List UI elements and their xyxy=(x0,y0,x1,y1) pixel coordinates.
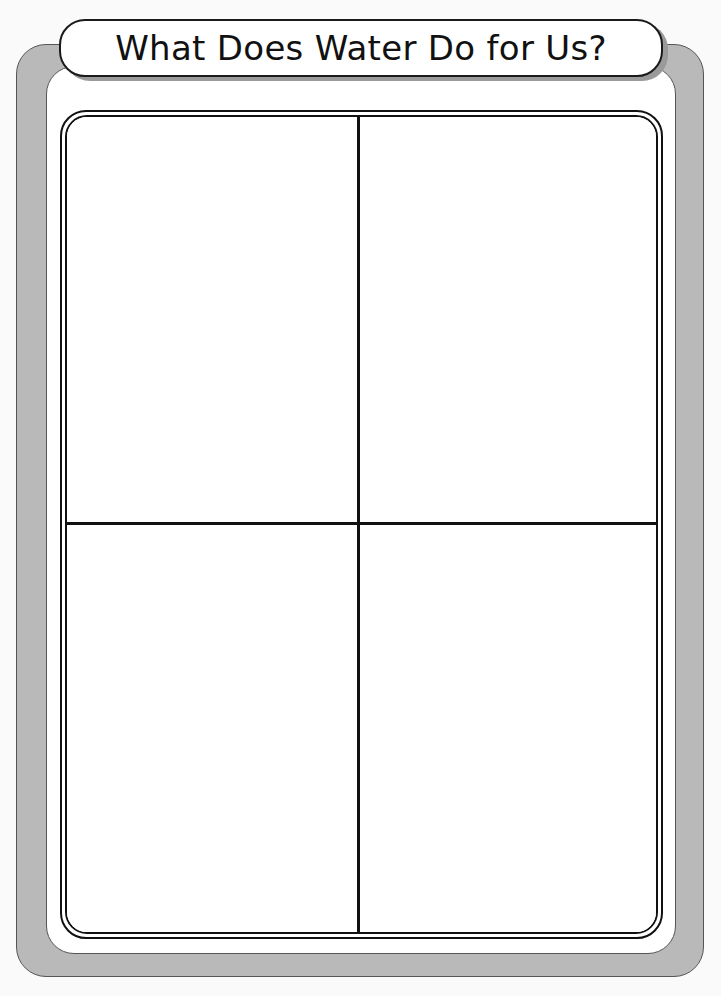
quadrant-top-right[interactable] xyxy=(359,117,658,522)
page-title: What Does Water Do for Us? xyxy=(115,28,607,68)
quadrant-top-left[interactable] xyxy=(67,117,357,522)
worksheet-page: What Does Water Do for Us? xyxy=(0,0,721,996)
title-banner: What Does Water Do for Us? xyxy=(59,19,663,77)
quadrant-bottom-left[interactable] xyxy=(67,524,357,934)
horizontal-divider xyxy=(67,522,656,525)
vertical-divider xyxy=(357,117,360,932)
quadrant-bottom-right[interactable] xyxy=(359,524,658,934)
four-square-organizer xyxy=(65,115,658,934)
